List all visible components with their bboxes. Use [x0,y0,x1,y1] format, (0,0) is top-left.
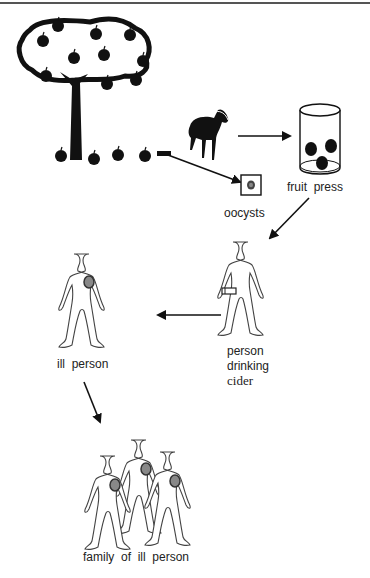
arrow-press-to-drinker [270,198,309,238]
diagram-canvas [0,0,370,578]
calf-icon [189,109,229,160]
ill-person-icon [59,254,105,347]
label-fruit-press: fruit press [287,180,343,194]
arrow-ill-to-family [84,382,100,422]
person-icon [218,242,264,335]
label-ill-person: ill person [57,357,108,371]
apple-tree-icon [19,17,171,165]
fruit-press-icon [300,104,340,174]
family-group-icon [85,440,191,549]
label-person-line2: drinking [227,359,269,373]
arrow-tree-to-oocysts [168,155,240,182]
oocyst-icon [241,175,261,195]
label-person-line1: person [227,344,264,358]
label-oocysts: oocysts [224,206,265,220]
label-person-line3: cider [227,374,253,388]
label-family: family of ill person [83,550,189,564]
